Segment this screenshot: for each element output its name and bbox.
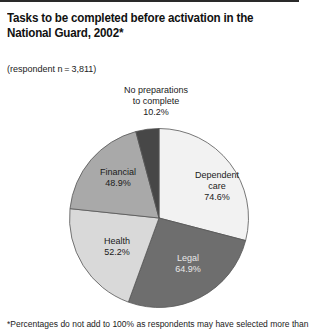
footnote: *Percentages do not add to 100% as respo… — [7, 319, 308, 329]
label-legal: Legal 64.9% — [163, 253, 213, 275]
label-health: Health 52.2% — [92, 236, 142, 258]
label-dependent-care: Dependent care 74.6% — [182, 170, 252, 203]
label-financial: Financial 48.9% — [88, 167, 148, 189]
pie-slices — [69, 129, 248, 308]
label-no-preparations: No preparations to complete 10.2% — [111, 85, 201, 118]
